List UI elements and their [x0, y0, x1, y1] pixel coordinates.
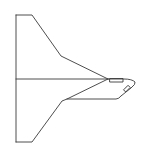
- fuselage-lower-edge: [67, 96, 121, 99]
- shuttle-diagram: [0, 0, 145, 151]
- shuttle-outline-svg: [0, 0, 145, 151]
- cockpit-window-lower: [124, 85, 130, 91]
- lower-wing: [16, 79, 108, 142]
- upper-wing: [16, 15, 108, 79]
